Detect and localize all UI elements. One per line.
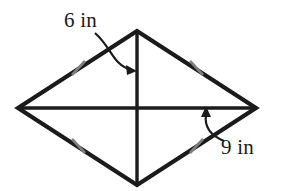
vertical-diagonal-label: 6 in xyxy=(64,10,97,31)
rhombus-diagram xyxy=(0,0,291,191)
geometry-figure: 6 in 9 in xyxy=(0,0,291,191)
horizontal-diagonal-label: 9 in xyxy=(221,137,254,158)
